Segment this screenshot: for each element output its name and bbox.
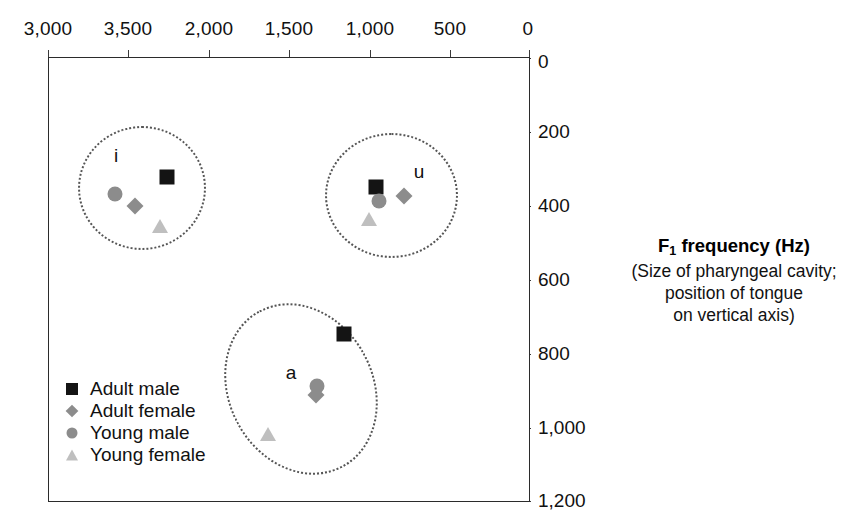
legend-item-young-male[interactable]: Young male	[62, 422, 206, 444]
vowel-label-i: i	[114, 145, 118, 167]
legend-label: Young female	[90, 444, 206, 466]
x-tick-mark	[128, 50, 129, 57]
data-point-young-female-a[interactable]	[260, 427, 276, 441]
triangle-marker-icon	[62, 445, 82, 465]
data-point-young-female-i[interactable]	[152, 219, 168, 233]
legend-item-adult-male[interactable]: Adult male	[62, 378, 206, 400]
x-tick-mark	[529, 50, 530, 57]
x-tick-mark	[48, 50, 49, 57]
y-tick-label: 0	[538, 51, 549, 73]
vowel-label-a: a	[286, 362, 297, 384]
chart-legend: Adult male Adult female Young male Young…	[62, 378, 206, 466]
vowel-group-ellipse-i	[78, 126, 206, 250]
legend-item-adult-female[interactable]: Adult female	[62, 400, 206, 422]
x-tick-label: 500	[434, 18, 466, 40]
data-point-young-male-i[interactable]	[108, 187, 123, 202]
x-tick-mark	[209, 50, 210, 57]
x-tick-label: 2,000	[185, 18, 234, 40]
x-tick-label: 1,000	[346, 18, 395, 40]
x-tick-label: 3,500	[104, 18, 153, 40]
vowel-group-ellipse-u	[325, 133, 458, 258]
data-point-young-female-u[interactable]	[361, 212, 377, 226]
vowel-label-u: u	[414, 161, 425, 183]
y-tick-label: 200	[538, 121, 570, 143]
x-tick-label: 1,500	[265, 18, 314, 40]
y-axis-subtitle-line-2: position of tongue	[612, 282, 856, 304]
x-tick-mark	[450, 50, 451, 57]
circle-marker-icon	[62, 423, 82, 443]
y-axis-subtitle-line-3: on vertical axis)	[612, 304, 856, 326]
y-axis-subtitle-line-1: (Size of pharyngeal cavity;	[612, 260, 856, 282]
diamond-marker-icon	[62, 401, 82, 421]
x-tick-label: 3,000	[24, 18, 73, 40]
legend-label: Adult female	[90, 400, 196, 422]
y-tick-label: 800	[538, 343, 570, 365]
y-axis-title-suffix: frequency (Hz)	[676, 235, 810, 256]
y-axis-title-subscript: 1	[669, 244, 676, 258]
y-axis-title-prefix: F	[658, 235, 669, 256]
square-marker-icon	[62, 379, 82, 399]
data-point-adult-male-i[interactable]	[160, 170, 175, 185]
legend-label: Young male	[90, 422, 190, 444]
y-tick-label: 600	[538, 269, 570, 291]
vowel-formant-chart: 3,000 3,500 2,000 1,500 1,000 500 0 0 20…	[0, 0, 860, 529]
legend-item-young-female[interactable]: Young female	[62, 444, 206, 466]
x-tick-label: 0	[523, 18, 534, 40]
y-tick-label: 1,200	[538, 490, 586, 512]
legend-label: Adult male	[90, 378, 180, 400]
y-tick-label: 400	[538, 195, 570, 217]
x-tick-mark	[370, 50, 371, 57]
y-tick-label: 1,000	[538, 417, 586, 439]
x-tick-mark	[289, 50, 290, 57]
data-point-adult-male-u[interactable]	[369, 180, 384, 195]
y-axis-title: F1 frequency (Hz)	[612, 234, 856, 258]
data-point-adult-male-a[interactable]	[337, 327, 352, 342]
y-axis-title-block: F1 frequency (Hz) (Size of pharyngeal ca…	[612, 234, 856, 327]
data-point-young-male-u[interactable]	[372, 194, 387, 209]
